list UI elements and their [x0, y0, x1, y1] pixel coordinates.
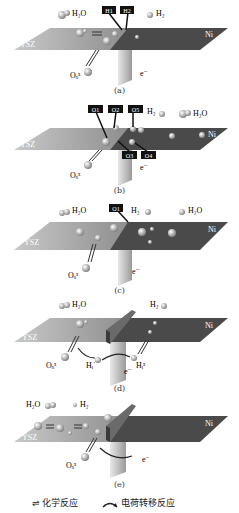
ysz-label: YSZ: [22, 333, 37, 342]
panel-a: H1 H2 H₂O H₂ YSZ Ni Oₒˣ e⁻ (a): [0, 0, 239, 100]
ysz-label: YSZ: [24, 238, 39, 247]
oxide-label: Oₒˣ: [46, 361, 57, 370]
legend-charge-transfer: 电荷转移反应: [102, 496, 175, 509]
h2o-label: H₂O: [26, 400, 41, 409]
ni-label: Ni: [208, 225, 217, 234]
tag-o4-text: O4: [145, 153, 152, 159]
caption-c: (c): [0, 286, 239, 295]
ysz-label: YSZ: [22, 433, 37, 442]
panel-c-diagram: O1 H₂O H₂ H₂O YSZ Ni Oₒˣ e⁻: [0, 200, 239, 286]
oxide-label: Oₒˣ: [66, 461, 77, 470]
panel-d-diagram: H₂O H₂ YSZ Ni Oₒˣ Hᵢ˙ Hᵢˣ e⁻: [0, 300, 239, 386]
panel-a-diagram: H1 H2 H₂O H₂ YSZ Ni Oₒˣ e⁻: [0, 0, 239, 86]
h2o-right-label: H₂O: [188, 206, 203, 215]
oxide-label: Oₒˣ: [68, 271, 79, 280]
tag-o1-text: O1: [112, 206, 119, 212]
tag-h2-text: H2: [123, 8, 130, 14]
tag-o2-text: O2: [112, 107, 119, 113]
ysz-label: YSZ: [20, 40, 35, 49]
legend-chemical: ⇌ 化学反应: [32, 496, 78, 509]
electron-label: e⁻: [142, 455, 150, 464]
electron-label: e⁻: [132, 267, 140, 276]
ysz-label: YSZ: [20, 140, 35, 149]
h2o-label: H₂O: [193, 109, 208, 118]
caption-e: (e): [0, 480, 239, 489]
electron-label: e⁻: [140, 163, 148, 172]
oxide-label: Oₒˣ: [70, 171, 81, 180]
caption-a: (a): [0, 86, 239, 95]
h2-label: H₂: [147, 107, 156, 116]
curved-arrow-icon: [102, 500, 118, 508]
ni-label: Ni: [205, 321, 214, 330]
h2o-left-label: H₂O: [72, 206, 87, 215]
caption-b: (b): [0, 186, 239, 195]
tag-o3-text: O3: [126, 153, 133, 159]
legend: ⇌ 化学反应 电荷转移反应: [0, 496, 239, 510]
tag-h1-text: H1: [105, 8, 112, 14]
wedge: [118, 46, 132, 86]
panel-b: O1 O2 O5 O3 O4 H₂ H₂O YSZ Ni Oₒˣ e⁻ (b): [0, 100, 239, 200]
h2-label: H₂: [156, 9, 165, 18]
ni-label: Ni: [208, 130, 217, 139]
hi-right-label: Hᵢˣ: [136, 361, 146, 370]
panel-e: H₂O H₂ YSZ Ni Oₒˣ e⁻ (e): [0, 400, 239, 496]
legend-chemical-label: 化学反应: [42, 498, 78, 508]
h2o-label: H₂O: [72, 9, 87, 18]
legend-charge-transfer-label: 电荷转移反应: [121, 498, 175, 508]
electron-label: e⁻: [140, 69, 148, 78]
ni-label: Ni: [205, 30, 214, 39]
h2o-label: H₂O: [72, 300, 87, 309]
caption-d: (d): [0, 384, 239, 393]
tag-o1-text: O1: [92, 107, 99, 113]
panel-e-diagram: H₂O H₂ YSZ Ni Oₒˣ e⁻: [0, 400, 239, 478]
electron-label: e⁻: [124, 367, 132, 376]
hi-left-label: Hᵢ˙: [86, 361, 96, 370]
oxide-label: Oₒˣ: [70, 71, 81, 80]
panel-c: O1 H₂O H₂ H₂O YSZ Ni Oₒˣ e⁻ (c): [0, 200, 239, 300]
equilibrium-arrow-icon: ⇌: [32, 498, 40, 508]
panel-b-diagram: O1 O2 O5 O3 O4 H₂ H₂O YSZ Ni Oₒˣ e⁻: [0, 100, 239, 186]
h2-label: H₂: [131, 206, 140, 215]
h2-label: H₂: [80, 400, 89, 409]
charge-transfer-arrow: [78, 348, 95, 358]
h2-label: H₂: [150, 300, 159, 309]
tag-o5-text: O5: [132, 107, 139, 113]
panel-d: H₂O H₂ YSZ Ni Oₒˣ Hᵢ˙ Hᵢˣ e⁻ (d): [0, 300, 239, 400]
ni-label: Ni: [205, 419, 214, 428]
